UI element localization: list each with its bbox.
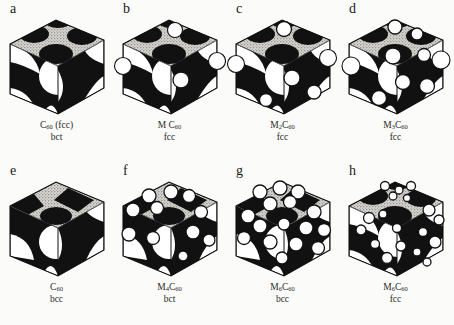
dopant-sphere [418, 49, 431, 62]
panel-row-bottom: eC60bccfM4C60bctgM6C60bcchM6C60fcc [0, 162, 454, 324]
unit-cell-diagram [0, 14, 113, 118]
chemical-formula: M C60 [113, 120, 226, 132]
dopant-sphere [429, 236, 441, 248]
unit-cell-f [113, 176, 226, 280]
panel-row-top: aC60 (fcc)bctbM C60fcccM2C60fccdM3C60fcc [0, 0, 454, 162]
dopant-sphere [413, 248, 421, 256]
dopant-sphere [389, 192, 397, 200]
unit-cell-diagram [226, 14, 339, 118]
dopant-sphere [364, 213, 375, 224]
unit-cell-g [226, 176, 339, 280]
dopant-sphere [238, 232, 251, 245]
dopant-sphere [419, 228, 428, 237]
lattice-label: bcc [0, 294, 113, 305]
panel-c: cM2C60fcc [226, 0, 339, 162]
dopant-sphere [432, 51, 450, 69]
dopant-sphere [342, 57, 360, 75]
panel-caption: M2C60fcc [226, 120, 339, 143]
panel-h: hM6C60fcc [339, 162, 452, 324]
dopant-sphere [423, 204, 435, 216]
chemical-formula: M3C60 [339, 120, 452, 132]
chemical-formula: M6C60 [226, 282, 339, 294]
unit-cell-c [226, 14, 339, 118]
formula-subscript-2: 60 [175, 285, 182, 292]
dopant-sphere [273, 181, 287, 195]
lattice-label: bct [113, 294, 226, 305]
dopant-sphere [423, 258, 431, 266]
dopant-sphere [407, 182, 416, 191]
dopant-sphere [142, 189, 156, 203]
dopant-sphere [178, 251, 188, 261]
dopant-sphere [253, 185, 267, 199]
dopant-sphere [299, 221, 313, 235]
dopant-sphere [381, 182, 390, 191]
dopant-sphere [151, 202, 164, 215]
chemical-formula: M2C60 [226, 120, 339, 132]
dopant-sphere [173, 72, 189, 88]
dopant-sphere [318, 224, 331, 237]
formula-subscript: 4 [166, 285, 169, 292]
panel-caption: M6C60bcc [226, 282, 339, 305]
unit-cell-diagram [339, 176, 452, 280]
dopant-sphere [228, 56, 245, 73]
dopant-sphere [253, 219, 267, 233]
lattice-label: fcc [113, 132, 226, 143]
unit-cell-diagram [0, 176, 113, 280]
unit-cell-b [113, 14, 226, 118]
formula-subscript: 6 [392, 285, 395, 292]
unit-cell-diagram [226, 176, 339, 280]
dopant-sphere [126, 203, 140, 217]
unit-cell-diagram [113, 176, 226, 280]
panel-b: bM C60fcc [113, 0, 226, 162]
panel-d: dM3C60fcc [339, 0, 452, 162]
dopant-sphere [411, 28, 423, 40]
formula-subscript-2: 60 [401, 285, 408, 292]
dopant-sphere [371, 240, 380, 249]
chemical-formula: M4C60 [113, 282, 226, 294]
dopant-sphere [372, 91, 387, 106]
dopant-sphere [312, 242, 325, 255]
chemical-formula: M6C60 [339, 282, 452, 294]
dopant-sphere [263, 197, 277, 211]
dopant-sphere [388, 20, 402, 34]
dopant-sphere [195, 206, 208, 219]
dopant-sphere [307, 85, 321, 99]
dopant-sphere [260, 94, 273, 107]
formula-subscript: 6 [279, 285, 282, 292]
dopant-sphere [307, 205, 321, 219]
lattice-label: bcc [226, 294, 339, 305]
dopant-sphere [277, 22, 292, 37]
panel-caption: M6C60fcc [339, 282, 452, 305]
dopant-sphere [396, 241, 406, 251]
lattice-label: bct [0, 132, 113, 143]
dopant-sphere [393, 224, 402, 233]
formula-subscript-2: 60 [288, 123, 295, 130]
panel-caption: M C60fcc [113, 120, 226, 143]
panel-caption: M3C60fcc [339, 120, 452, 143]
panel-e: eC60bcc [0, 162, 113, 324]
lattice-label: fcc [226, 132, 339, 143]
dopant-sphere [203, 234, 215, 246]
crystal-structure-figure: aC60 (fcc)bctbM C60fcccM2C60fccdM3C60fcc… [0, 0, 454, 325]
dopant-sphere [284, 70, 300, 86]
panel-caption: C60 (fcc)bct [0, 120, 113, 143]
panel-a: aC60 (fcc)bct [0, 0, 113, 162]
formula-subscript: 60 [175, 123, 182, 130]
dopant-sphere [420, 79, 435, 94]
dopant-sphere [186, 225, 200, 239]
dopant-sphere [289, 237, 303, 251]
lattice-label: fcc [339, 294, 452, 305]
dopant-sphere [404, 195, 411, 202]
dopant-sphere [278, 218, 290, 230]
dopant-sphere [320, 50, 337, 67]
panel-f: fM4C60bct [113, 162, 226, 324]
unit-cell-a [0, 14, 113, 118]
formula-subscript: 60 [46, 123, 53, 130]
dopant-sphere [164, 185, 178, 199]
unit-cell-h [339, 176, 452, 280]
unit-cell-diagram [339, 14, 452, 118]
chemical-formula: C60 [0, 282, 113, 294]
panel-g: gM6C60bcc [226, 162, 339, 324]
dopant-sphere [396, 75, 411, 90]
unit-cell-diagram [113, 14, 226, 118]
